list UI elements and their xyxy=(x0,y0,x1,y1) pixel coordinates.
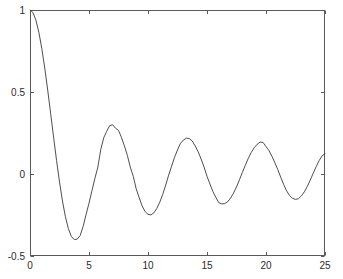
x-tick-label: 0 xyxy=(27,260,33,271)
x-tick-label: 25 xyxy=(319,260,330,271)
x-tick-label: 15 xyxy=(201,260,212,271)
plot-canvas xyxy=(0,0,343,279)
x-tick-label: 5 xyxy=(86,260,92,271)
y-tick-label: 1 xyxy=(19,5,25,16)
y-tick-label: 0 xyxy=(19,169,25,180)
y-tick-label: -0.5 xyxy=(8,251,25,262)
chart-figure: -0.500.51 0510152025 xyxy=(0,0,343,279)
x-tick-label: 20 xyxy=(260,260,271,271)
figure-background xyxy=(0,0,343,279)
y-tick-label: 0.5 xyxy=(11,87,25,98)
x-tick-label: 10 xyxy=(142,260,153,271)
